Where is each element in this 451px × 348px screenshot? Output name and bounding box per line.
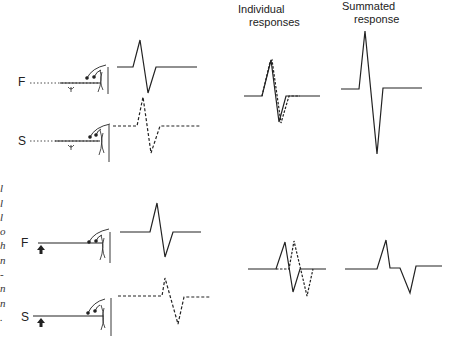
bottom-f-arrow-up-icon	[37, 245, 45, 254]
header-summated-response: Summated response	[342, 0, 422, 26]
top-s-nerve	[30, 124, 110, 162]
top-s-label: S	[18, 135, 26, 148]
top-f-nerve	[30, 65, 108, 94]
bottom-individual-waveforms	[248, 241, 326, 296]
bottom-s-nerve	[33, 298, 111, 336]
margin-line: o	[0, 225, 6, 238]
top-f-waveform	[117, 40, 197, 93]
margin-line: l	[0, 211, 3, 224]
margin-line: l	[0, 182, 3, 195]
bottom-s-arrow-up-icon	[37, 318, 45, 327]
margin-line: -	[0, 268, 4, 281]
top-f-label: F	[18, 76, 25, 89]
top-s-stimulus-marker	[68, 145, 74, 150]
top-individual-waveforms	[244, 60, 320, 123]
margin-line: n	[0, 254, 6, 267]
bottom-s-waveform	[118, 278, 210, 324]
margin-line: l	[0, 197, 3, 210]
margin-line: n	[0, 297, 6, 310]
top-summated-waveform	[341, 31, 422, 154]
header-summated-line1: Summated	[342, 0, 422, 13]
header-individual-responses: Individual responses	[238, 3, 328, 29]
top-s-waveform	[113, 97, 200, 153]
header-individual-line2: responses	[238, 16, 328, 29]
top-f-stimulus-marker	[68, 87, 74, 92]
header-summated-line2: response	[342, 13, 422, 26]
margin-line: .	[0, 311, 3, 324]
bottom-f-label: F	[21, 237, 28, 250]
bottom-summated-waveform	[345, 240, 442, 293]
bottom-f-waveform	[120, 203, 201, 257]
diagram-canvas	[0, 0, 451, 348]
margin-line: n	[0, 282, 6, 295]
bottom-f-nerve	[38, 229, 110, 263]
margin-line: h	[0, 239, 6, 252]
bottom-s-label: S	[21, 311, 29, 324]
header-individual-line1: Individual	[238, 3, 328, 16]
